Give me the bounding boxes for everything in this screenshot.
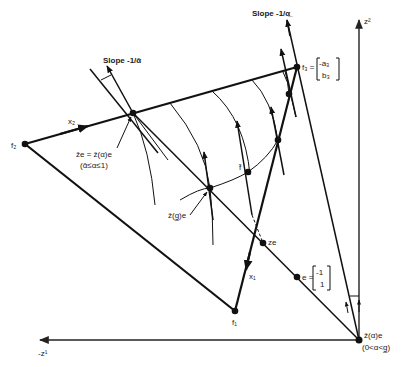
edge-f2-f1 [25, 144, 235, 311]
label-z2: z² [364, 17, 371, 26]
label-zhat-g: ẑ(g̲)e [168, 211, 187, 221]
angle-mark-zbar [101, 75, 111, 80]
label-zbar-e-1: z̄e = ẑ(α)e [76, 150, 113, 159]
point-zhat-g [207, 185, 214, 192]
label-x2: x₂ [68, 117, 75, 126]
label-f3: f₃ = [302, 63, 315, 72]
point-e [294, 274, 301, 281]
label-slope-abar: Slope -1/ᾱ [103, 56, 141, 65]
svg-text:b₃: b₃ [322, 71, 330, 80]
point-mid-f1f3 [275, 137, 282, 144]
geometric-diagram: z² -z¹ Slope -1/ᾱ Slope -1/α̲ f₂ x₂ z̄e … [0, 0, 405, 367]
curve-zg-f-mid [180, 140, 278, 200]
point-zbar-e [130, 110, 137, 117]
label-origin-2: (0<α<g̲) [362, 343, 391, 353]
point-f-hat [245, 169, 252, 176]
tangent2-zbar [133, 113, 168, 160]
point-f1 [232, 308, 239, 315]
edge-f1-f3 [235, 67, 297, 311]
label-slope-alpha: Slope -1/α̲ [252, 9, 293, 18]
label-x1: x₁ [249, 272, 256, 281]
slant-small-arrow [346, 302, 348, 313]
f3-matrix: -a₃ b₃ [317, 58, 339, 80]
label-f1: f₁ [232, 318, 237, 327]
label-origin-1: ẑ(α)e [364, 331, 383, 340]
e-matrix: -1 1 [313, 266, 330, 290]
x2-arrow [60, 126, 88, 134]
pointer-zbar [117, 117, 131, 148]
label-ze: ze [268, 238, 277, 247]
ray-e-direction [133, 113, 359, 340]
arc-4 [252, 80, 278, 140]
label-e: e = [302, 273, 314, 282]
label-neg-z1: -z¹ [38, 349, 48, 358]
svg-text:-1: -1 [316, 268, 324, 277]
point-ze [260, 240, 267, 247]
tangent-line-zbar [90, 69, 158, 153]
label-f2: f₂ [11, 141, 16, 150]
label-zbar-e-2: (ᾱ≤α≤1) [80, 161, 108, 170]
svg-text:-a₃: -a₃ [319, 59, 329, 68]
point-f2 [22, 141, 29, 148]
svg-text:1: 1 [320, 280, 325, 289]
label-f-hat: f̂ [238, 163, 242, 172]
point-f3 [294, 64, 301, 71]
pointer-zhat-g [190, 192, 207, 215]
point-upper-f1f3 [286, 91, 293, 98]
